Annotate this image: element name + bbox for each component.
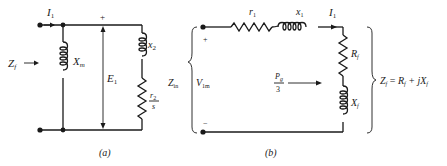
svg-text:Zf: Zf bbox=[8, 57, 17, 71]
svg-text:r2: r2 bbox=[150, 91, 156, 101]
equivalent-reactance-inductor bbox=[340, 86, 348, 114]
magnetizing-inductor bbox=[60, 42, 68, 70]
figure-a: I1 Xm Zf + E1 x2 r2 s (a) bbox=[8, 6, 159, 159]
current-arrowhead-b bbox=[331, 25, 337, 30]
right-brace bbox=[367, 27, 376, 133]
caption-b: (b) bbox=[265, 147, 277, 159]
rotor-resistance-resistor bbox=[138, 78, 146, 119]
svg-text:s: s bbox=[152, 102, 155, 111]
svg-text:r1: r1 bbox=[249, 6, 256, 18]
svg-text:Xf: Xf bbox=[350, 97, 360, 109]
current-arrowhead-a bbox=[50, 23, 55, 28]
svg-text:E1: E1 bbox=[106, 72, 118, 86]
svg-text:+: + bbox=[100, 12, 105, 22]
svg-text:x1: x1 bbox=[295, 6, 303, 18]
caption-a: (a) bbox=[99, 147, 111, 159]
svg-text:+: + bbox=[203, 35, 208, 44]
circuit-diagram: I1 Xm Zf + E1 x2 r2 s (a) Zin V1m + − bbox=[0, 0, 447, 166]
impedance-equation: Zf = Rf + jXf bbox=[380, 75, 429, 87]
terminal-top-a bbox=[37, 22, 42, 27]
figure-b: Zin V1m + − r1 x1 I1 Rf Xf Pg 3 bbox=[168, 6, 429, 159]
rotor-reactance-inductor bbox=[139, 33, 147, 56]
svg-text:V1m: V1m bbox=[196, 77, 210, 89]
svg-text:3: 3 bbox=[276, 85, 280, 94]
svg-text:I1: I1 bbox=[46, 6, 55, 20]
terminal-bottom-a bbox=[37, 127, 42, 132]
svg-text:Zin: Zin bbox=[168, 77, 178, 89]
equivalent-resistance-resistor bbox=[339, 35, 347, 76]
svg-text:Xm: Xm bbox=[72, 55, 85, 69]
svg-text:I1: I1 bbox=[328, 6, 337, 20]
svg-text:−: − bbox=[203, 119, 208, 128]
stator-resistance-resistor bbox=[231, 23, 272, 31]
svg-text:Pg: Pg bbox=[274, 72, 283, 82]
svg-text:Rf: Rf bbox=[350, 48, 360, 60]
svg-text:x2: x2 bbox=[147, 39, 156, 52]
stator-reactance-inductor bbox=[278, 23, 306, 31]
